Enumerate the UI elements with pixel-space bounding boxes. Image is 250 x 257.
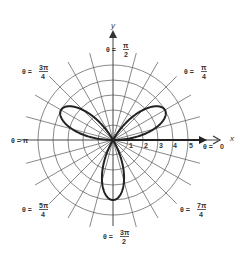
angle-label-numerator: π bbox=[201, 64, 207, 71]
grid-spoke-120deg bbox=[68, 62, 113, 140]
radial-tick-3: 3 bbox=[159, 142, 163, 149]
angle-label-prefix: θ = π bbox=[11, 137, 29, 144]
angle-label-prefix: θ = bbox=[203, 143, 213, 150]
polar-graph: x y 1 2 3 4 5 θ = 0θ = π4θ = π2θ = 3π4θ … bbox=[0, 0, 250, 257]
angle-label-denominator: 2 bbox=[122, 238, 126, 245]
angle-label-denominator: 4 bbox=[199, 211, 203, 218]
angle-label-prefix: θ = bbox=[22, 206, 32, 213]
radial-tick-1: 1 bbox=[129, 142, 133, 149]
angle-label-theta-3pi-over-2: θ = 3π2 bbox=[103, 229, 130, 245]
grid-spoke-315deg bbox=[113, 140, 177, 204]
grid-spoke-60deg bbox=[113, 62, 158, 140]
y-axis-arrowhead-icon bbox=[109, 30, 117, 38]
grid-spoke-240deg bbox=[68, 140, 113, 218]
angle-label-denominator: 4 bbox=[41, 211, 45, 218]
grid-spoke-300deg bbox=[113, 140, 158, 218]
radial-tick-2: 2 bbox=[144, 142, 148, 149]
angle-label-prefix: θ = bbox=[106, 46, 116, 53]
angle-label-prefix: θ = bbox=[184, 68, 194, 75]
y-axis-label: y bbox=[110, 21, 116, 30]
x-axis-label: x bbox=[229, 134, 235, 143]
angle-label-value: 0 bbox=[220, 143, 224, 150]
angle-label-theta-pi-over-2: θ = π2 bbox=[106, 42, 129, 58]
angle-label-denominator: 4 bbox=[41, 73, 45, 80]
angle-label-numerator: 3π bbox=[39, 64, 49, 71]
angle-label-theta-pi-over-4: θ = π4 bbox=[184, 64, 207, 80]
angle-label-numerator: 5π bbox=[39, 202, 49, 209]
angle-label-theta-7pi-over-4: θ = 7π4 bbox=[180, 202, 207, 218]
radial-tick-5: 5 bbox=[189, 142, 193, 149]
grid-spoke-225deg bbox=[49, 140, 113, 204]
angle-label-denominator: 2 bbox=[124, 51, 128, 58]
angle-label-prefix: θ = bbox=[22, 68, 32, 75]
radial-tick-4: 4 bbox=[173, 142, 177, 149]
angle-label-numerator: π bbox=[123, 42, 129, 49]
angle-label-theta-pi: θ = π bbox=[11, 137, 29, 144]
angle-label-numerator: 3π bbox=[120, 229, 130, 236]
angle-label-theta-3pi-over-4: θ = 3π4 bbox=[22, 64, 49, 80]
angle-label-denominator: 4 bbox=[202, 73, 206, 80]
grid-spoke-150deg bbox=[35, 95, 113, 140]
angle-label-prefix: θ = bbox=[103, 233, 113, 240]
angle-label-theta-5pi-over-4: θ = 5π4 bbox=[22, 202, 49, 218]
radial-tick-labels: 1 2 3 4 5 bbox=[129, 142, 193, 149]
angle-label-numerator: 7π bbox=[197, 202, 207, 209]
grid-spoke-30deg bbox=[113, 95, 191, 140]
angle-label-prefix: θ = bbox=[180, 206, 190, 213]
polar-graph-canvas: x y 1 2 3 4 5 θ = 0θ = π4θ = π2θ = 3π4θ … bbox=[0, 0, 250, 257]
